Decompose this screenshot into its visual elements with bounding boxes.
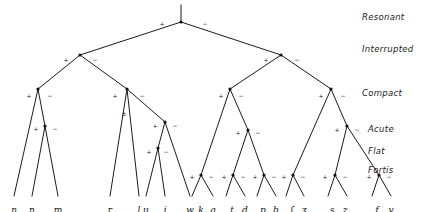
leaf-esh: ʃ (291, 205, 293, 212)
edge-intl-right (80, 55, 127, 89)
edge-acu4-left (335, 126, 347, 175)
feature-label-compact: Compact (362, 88, 402, 98)
sign-for2-minus: − (240, 174, 245, 180)
node-acute-2 (163, 120, 166, 123)
node-compact-2 (125, 87, 128, 90)
leaf-z: z (343, 205, 348, 212)
edge-group (14, 5, 391, 196)
node-compact-3 (228, 87, 231, 90)
leaf-j: j (164, 205, 167, 212)
sign-cmp2-pm: ± (121, 111, 126, 117)
node-interrupted-l (78, 53, 81, 56)
leaf-ezh: ʒ (301, 205, 306, 212)
edge-intr-right (281, 55, 331, 89)
edge-for3-left (257, 175, 264, 196)
leaf-n: n (29, 205, 35, 212)
leaf-p: p (260, 205, 266, 212)
node-fortis-1 (199, 173, 202, 176)
edge-root-right (181, 22, 281, 55)
sign-for3-minus: − (271, 174, 276, 180)
node-root (179, 20, 182, 23)
edge-flat1-left (146, 148, 158, 196)
leaf-w: w (186, 205, 194, 212)
edge-cmp3-left (201, 89, 230, 175)
sign-for3-plus: + (252, 174, 257, 180)
sign-for1-plus: + (189, 174, 194, 180)
edge-for5-left (328, 175, 335, 196)
sign-root-plus: + (159, 21, 164, 27)
edge-acu3-right (248, 130, 264, 175)
sign-acu2-minus: − (172, 123, 177, 129)
node-compact-4 (329, 87, 332, 90)
sign-for5-plus: + (322, 174, 327, 180)
leaf-r: r (108, 205, 112, 212)
leaf-g: g (210, 205, 216, 212)
feature-label-acute: Acute (368, 124, 394, 134)
leaf-s: s (330, 205, 335, 212)
edge-for2-left (226, 175, 233, 196)
feature-label-interrupted: Interrupted (362, 44, 414, 54)
sign-acu3-plus: + (235, 130, 240, 136)
sign-flat-plus: + (146, 149, 151, 155)
edge-acu1-left (32, 126, 45, 196)
edge-acu2-left (158, 122, 165, 148)
sign-for1-minus: − (208, 174, 213, 180)
edge-cmp2-left (110, 89, 127, 196)
sign-acu1-minus: − (52, 126, 57, 132)
sign-cmp3-plus: + (218, 93, 223, 99)
sign-acu4-minus: − (354, 127, 359, 133)
edge-cmp2-right (127, 89, 165, 122)
leaf-f: f (375, 205, 378, 212)
sign-acu1-plus: + (33, 126, 38, 132)
feature-label-flat: Flat (368, 146, 385, 156)
sign-for5-minus: − (342, 174, 347, 180)
edge-root-left (80, 22, 181, 55)
node-fortis-5 (333, 173, 336, 176)
edge-cmp1-left (14, 89, 38, 196)
sign-cmp1-plus: + (26, 93, 31, 99)
node-acute-3 (246, 128, 249, 131)
tree-graphic (0, 0, 427, 212)
node-fortis-2 (231, 173, 234, 176)
leaf-m: m (54, 205, 63, 212)
node-fortis-4 (291, 173, 294, 176)
node-fortis-3 (262, 173, 265, 176)
sign-for6-plus: + (366, 174, 371, 180)
leaf-l: l (138, 205, 141, 212)
node-interrupted-r (279, 53, 282, 56)
sign-acu2-plus: + (152, 123, 157, 129)
sign-cmp2-minus: − (139, 93, 144, 99)
leaf-d: d (242, 205, 248, 212)
sign-for2-plus: + (221, 174, 226, 180)
edge-cmp4-left (293, 89, 331, 175)
edge-for4-left (286, 175, 293, 196)
sign-for4-minus: − (300, 174, 305, 180)
node-acute-4 (345, 124, 348, 127)
edge-intr-left (230, 55, 281, 89)
node-acute-1 (43, 124, 46, 127)
sign-int-r-plus: + (263, 57, 268, 63)
leaf-b: b (273, 205, 279, 212)
sign-root-minus: − (202, 21, 207, 27)
edge-intl-left (38, 55, 80, 89)
sign-for6-minus: − (386, 174, 391, 180)
edge-for6-left (372, 175, 379, 196)
sign-cmp2-plus: + (112, 93, 117, 99)
sign-acu4-plus: + (334, 127, 339, 133)
sign-cmp4-plus: + (318, 93, 323, 99)
leaf-t: t (230, 205, 234, 212)
edge-acu1-right (45, 126, 58, 196)
leaf-u: ɥ (143, 205, 149, 212)
edge-flat1-right (158, 148, 165, 196)
leaf-v: v (388, 205, 393, 212)
sign-int-l-minus: − (92, 57, 97, 63)
sign-cmp3-minus: − (238, 93, 243, 99)
edge-cmp1-right (38, 89, 45, 126)
feature-label-resonant: Resonant (362, 12, 404, 22)
sign-cmp1-minus: − (47, 93, 52, 99)
node-compact-1 (36, 87, 39, 90)
edge-acu3-left (233, 130, 248, 175)
sign-cmp4-minus: − (340, 93, 345, 99)
sign-for4-plus: + (281, 174, 286, 180)
sign-int-l-plus: + (63, 57, 68, 63)
